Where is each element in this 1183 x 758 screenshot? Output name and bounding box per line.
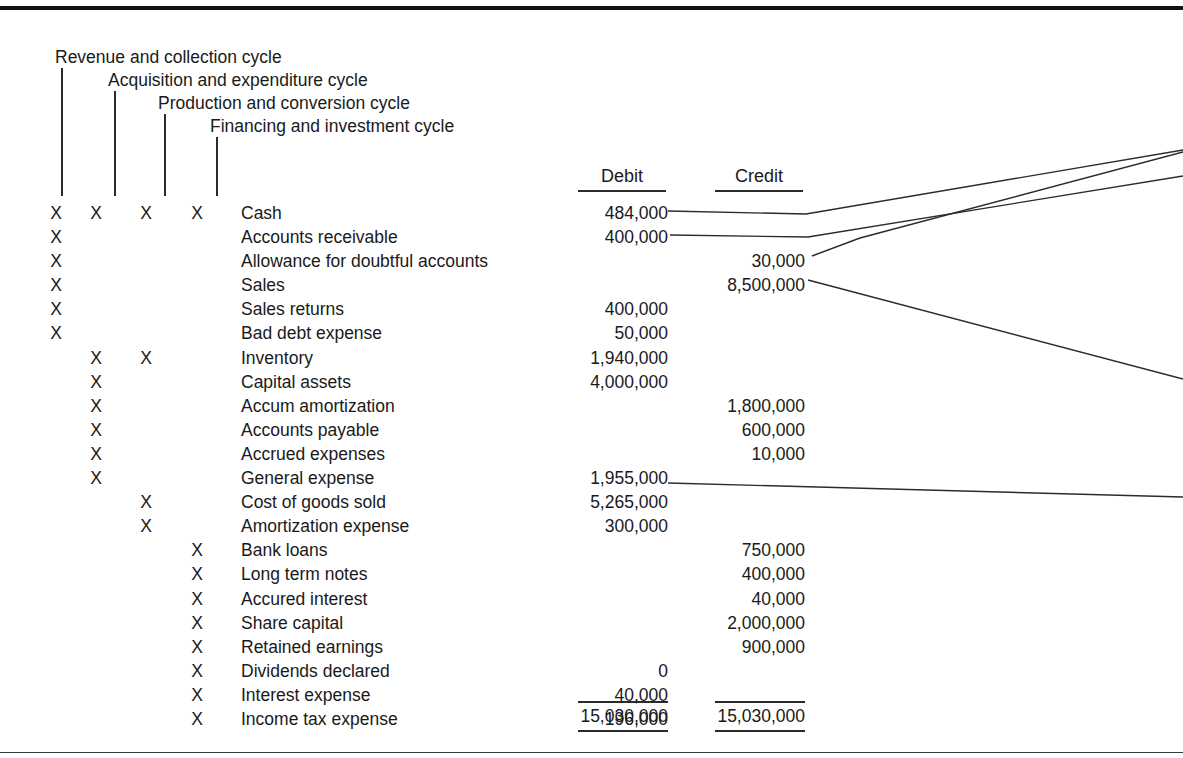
- table-row: XShare capital2,000,000: [0, 611, 1183, 635]
- cycle-mark-col3: X: [138, 201, 154, 225]
- column-header-debit-rule: [578, 190, 666, 192]
- cycle-leader-line-1: [114, 91, 116, 196]
- cycle-leader-line-0: [61, 68, 63, 196]
- credit-amount: 1,800,000: [637, 394, 805, 418]
- credit-amount: 30,000: [637, 249, 805, 273]
- column-header-debit: Debit: [578, 166, 666, 186]
- table-row: XCost of goods sold5,265,000: [0, 490, 1183, 514]
- table-row: XRetained earnings900,000: [0, 635, 1183, 659]
- account-name: Amortization expense: [241, 514, 409, 538]
- cycle-mark-col1: X: [48, 321, 64, 345]
- cycle-mark-col3: X: [138, 514, 154, 538]
- cycle-mark-col2: X: [88, 201, 104, 225]
- account-name: Income tax expense: [241, 707, 398, 731]
- table-row: XAccounts receivable400,000: [0, 225, 1183, 249]
- column-header-credit: Credit: [715, 166, 803, 186]
- cycle-mark-col4: X: [189, 538, 205, 562]
- cycle-mark-col2: X: [88, 346, 104, 370]
- cycle-mark-col1: X: [48, 273, 64, 297]
- cycle-mark-col4: X: [189, 201, 205, 225]
- credit-amount: 40,000: [637, 587, 805, 611]
- cycle-mark-col4: X: [189, 562, 205, 586]
- credit-amount: 2,000,000: [637, 611, 805, 635]
- table-row: XBad debt expense50,000: [0, 321, 1183, 345]
- cycle-mark-col1: X: [48, 297, 64, 321]
- cycle-mark-col1: X: [48, 201, 64, 225]
- table-row: XLong term notes400,000: [0, 562, 1183, 586]
- table-row: XCapital assets4,000,000: [0, 370, 1183, 394]
- debit-amount: 1,940,000: [500, 346, 668, 370]
- account-name: Allowance for doubtful accounts: [241, 249, 488, 273]
- credit-amount: 400,000: [637, 562, 805, 586]
- account-name: Cash: [241, 201, 282, 225]
- cycle-label-1: Acquisition and expenditure cycle: [108, 70, 368, 90]
- account-name: Accounts receivable: [241, 225, 398, 249]
- cycle-mark-col4: X: [189, 659, 205, 683]
- account-name: Cost of goods sold: [241, 490, 386, 514]
- cycle-mark-col3: X: [138, 490, 154, 514]
- cycle-leader-line-2: [164, 114, 166, 196]
- table-row: XAmortization expense300,000: [0, 514, 1183, 538]
- cycle-mark-col2: X: [88, 394, 104, 418]
- table-row: XBank loans750,000: [0, 538, 1183, 562]
- debit-amount: 484,000: [500, 201, 668, 225]
- account-name: Dividends declared: [241, 659, 390, 683]
- debit-amount: 0: [500, 659, 668, 683]
- account-name: Capital assets: [241, 370, 351, 394]
- account-name: Bad debt expense: [241, 321, 382, 345]
- table-row: XAllowance for doubtful accounts30,000: [0, 249, 1183, 273]
- credit-amount: 900,000: [637, 635, 805, 659]
- debit-amount: 300,000: [500, 514, 668, 538]
- credit-amount: 10,000: [637, 442, 805, 466]
- credit-amount: 750,000: [637, 538, 805, 562]
- account-name: Interest expense: [241, 683, 370, 707]
- credit-amount: 600,000: [637, 418, 805, 442]
- table-row: XDividends declared0: [0, 659, 1183, 683]
- cycle-leader-line-3: [216, 137, 218, 196]
- cycle-label-0: Revenue and collection cycle: [55, 47, 282, 67]
- credit-amount: 8,500,000: [637, 273, 805, 297]
- account-name: Sales returns: [241, 297, 344, 321]
- cycle-mark-col1: X: [48, 249, 64, 273]
- debit-total-bottom-rule: [578, 730, 668, 732]
- page-top-rule: [0, 6, 1183, 10]
- cycle-mark-col4: X: [189, 635, 205, 659]
- account-name: Inventory: [241, 346, 313, 370]
- table-row: XSales returns400,000: [0, 297, 1183, 321]
- cycle-mark-col2: X: [88, 370, 104, 394]
- account-name: Bank loans: [241, 538, 328, 562]
- cycle-label-3: Financing and investment cycle: [210, 116, 454, 136]
- debit-amount: 400,000: [500, 225, 668, 249]
- debit-amount: 50,000: [500, 321, 668, 345]
- table-row: XGeneral expense1,955,000: [0, 466, 1183, 490]
- account-name: Accured interest: [241, 587, 367, 611]
- debit-total-top-rule: [578, 701, 668, 703]
- account-name: Accum amortization: [241, 394, 395, 418]
- debit-amount: 400,000: [500, 297, 668, 321]
- account-name: Share capital: [241, 611, 343, 635]
- table-row: XXXXCash484,000: [0, 201, 1183, 225]
- debit-amount: 4,000,000: [500, 370, 668, 394]
- table-row: XAccured interest40,000: [0, 587, 1183, 611]
- column-header-credit-rule: [715, 190, 803, 192]
- cycle-mark-col4: X: [189, 611, 205, 635]
- cycle-mark-col4: X: [189, 707, 205, 731]
- cycle-mark-col1: X: [48, 225, 64, 249]
- trial-balance-rows: XXXXCash484,000XAccounts receivable400,0…: [0, 201, 1183, 731]
- table-row: XSales8,500,000: [0, 273, 1183, 297]
- cycle-label-2: Production and conversion cycle: [158, 93, 410, 113]
- page-bottom-rule: [0, 752, 1183, 753]
- account-name: Retained earnings: [241, 635, 383, 659]
- table-row: XAccum amortization1,800,000: [0, 394, 1183, 418]
- account-name: General expense: [241, 466, 374, 490]
- cycle-mark-col4: X: [189, 683, 205, 707]
- account-name: Long term notes: [241, 562, 367, 586]
- table-row: XXInventory1,940,000: [0, 346, 1183, 370]
- cycle-mark-col2: X: [88, 418, 104, 442]
- cycle-mark-col3: X: [138, 346, 154, 370]
- trial-balance-page: Revenue and collection cycleAcquisition …: [0, 0, 1183, 758]
- account-name: Accrued expenses: [241, 442, 385, 466]
- credit-total-top-rule: [715, 701, 805, 703]
- account-name: Accounts payable: [241, 418, 379, 442]
- debit-amount: 5,265,000: [500, 490, 668, 514]
